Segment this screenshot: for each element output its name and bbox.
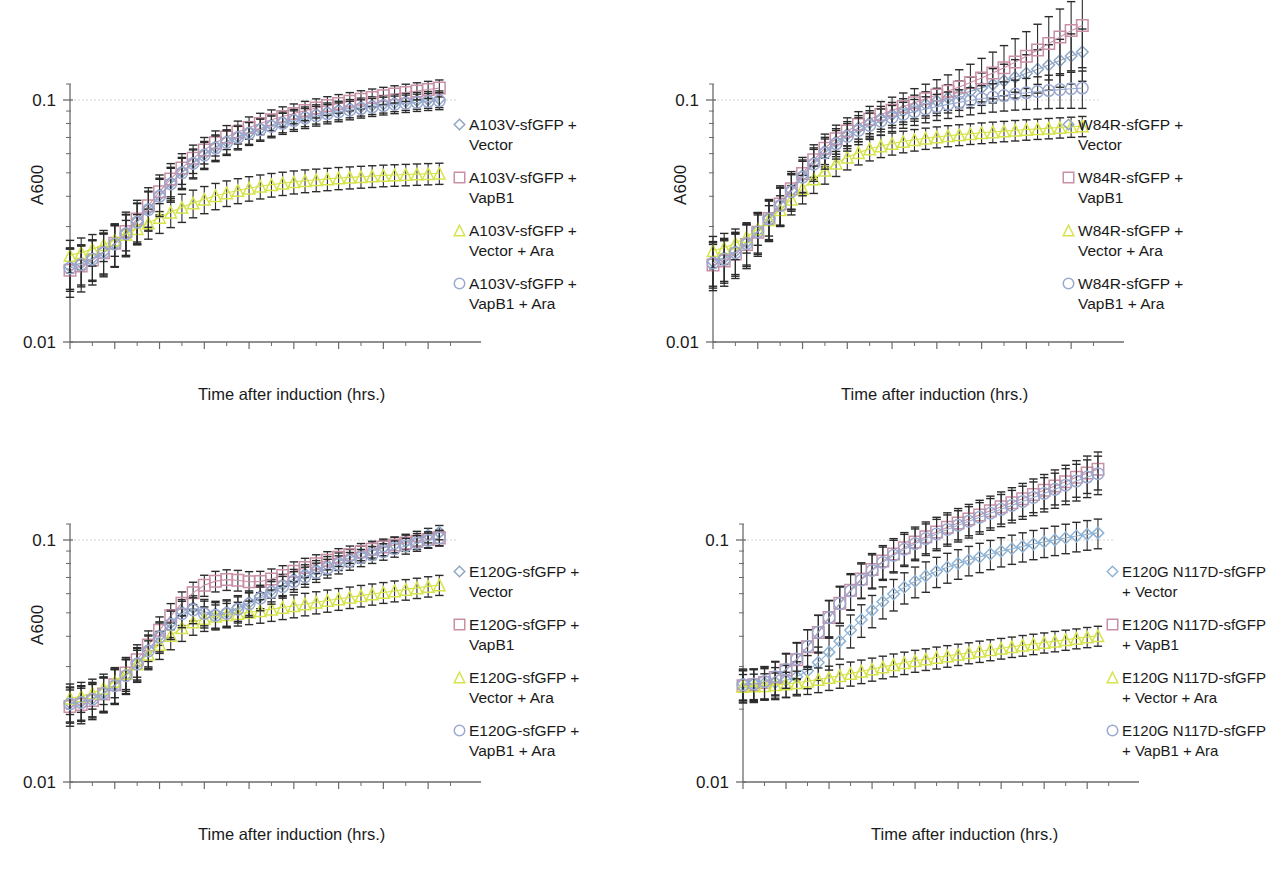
panel-a103v: A600 Time after induction (hrs.) 0.1 0.0… [0, 0, 644, 440]
growth-curve-figure: A600 Time after induction (hrs.) 0.1 0.0… [0, 0, 1287, 880]
triangle-marker-icon [1105, 670, 1120, 685]
legend-label: E120G-sfGFP + VapB1 [469, 615, 579, 655]
legend-label: E120G-sfGFP + Vector + Ara [469, 668, 579, 708]
legend-label: W84R-sfGFP + VapB1 [1078, 168, 1183, 208]
series-diamond [707, 29, 1088, 286]
y-tick-label-bottom: 0.01 [0, 773, 56, 793]
series-square [64, 530, 445, 726]
y-tick-label-bottom: 0.01 [673, 773, 729, 793]
triangle-marker-icon [452, 670, 467, 685]
legend-item: E120G N117D-sfGFP + VapB1 [1105, 615, 1285, 655]
legend-label: A103V-sfGFP + VapB1 [469, 168, 577, 208]
y-tick-label-bottom: 0.01 [0, 333, 56, 353]
circle-marker-icon [1105, 723, 1120, 738]
y-axis-title: A600 [28, 164, 48, 205]
triangle-marker-icon [452, 223, 467, 238]
legend-label: E120G N117D-sfGFP + VapB1 [1122, 615, 1266, 655]
x-axis-title: Time after induction (hrs.) [198, 825, 385, 844]
y-tick-label-top: 0.1 [6, 531, 56, 551]
legend-label: A103V-sfGFP + Vector [469, 115, 577, 155]
square-marker-icon [452, 170, 467, 185]
y-axis-title: A600 [671, 164, 691, 205]
legend-item: A103V-sfGFP + Vector + Ara [452, 221, 632, 261]
legend-label: E120G N117D-sfGFP + Vector + Ara [1122, 668, 1266, 708]
diamond-marker-icon [1061, 117, 1076, 132]
legend-item: E120G-sfGFP + Vector [452, 562, 637, 602]
series-circle [64, 531, 445, 724]
legend-label: E120G-sfGFP + VapB1 + Ara [469, 721, 579, 761]
square-marker-icon [1061, 170, 1076, 185]
legend-label: E120G-sfGFP + Vector [469, 562, 579, 602]
panel-e120g: A600 Time after induction (hrs.) 0.1 0.0… [0, 440, 644, 880]
y-tick-label-top: 0.1 [649, 91, 699, 111]
legend-a103v: A103V-sfGFP + VectorA103V-sfGFP + VapB1A… [452, 115, 632, 327]
y-tick-label-top: 0.1 [6, 91, 56, 111]
panel-w84r: A600 Time after induction (hrs.) 0.1 0.0… [643, 0, 1287, 440]
legend-label: A103V-sfGFP + Vector + Ara [469, 221, 577, 261]
legend-label: W84R-sfGFP + Vector [1078, 115, 1183, 155]
diamond-marker-icon [452, 117, 467, 132]
legend-item: E120G N117D-sfGFP + Vector [1105, 562, 1285, 602]
circle-marker-icon [452, 276, 467, 291]
legend-e120g: E120G-sfGFP + VectorE120G-sfGFP + VapB1E… [452, 562, 637, 774]
x-axis-title: Time after induction (hrs.) [841, 385, 1028, 404]
legend-label: W84R-sfGFP + Vector + Ara [1078, 221, 1183, 261]
legend-item: E120G-sfGFP + VapB1 + Ara [452, 721, 637, 761]
legend-item: W84R-sfGFP + VapB1 + Ara [1061, 274, 1251, 314]
legend-w84r: W84R-sfGFP + VectorW84R-sfGFP + VapB1W84… [1061, 115, 1251, 327]
legend-item: E120G N117D-sfGFP + Vector + Ara [1105, 668, 1285, 708]
square-marker-icon [1105, 617, 1120, 632]
legend-item: W84R-sfGFP + Vector + Ara [1061, 221, 1251, 261]
legend-item: W84R-sfGFP + Vector [1061, 115, 1251, 155]
y-axis-title: A600 [28, 604, 48, 645]
triangle-marker-icon [1061, 223, 1076, 238]
legend-label: W84R-sfGFP + VapB1 + Ara [1078, 274, 1183, 314]
square-marker-icon [452, 617, 467, 632]
x-axis-title: Time after induction (hrs.) [871, 825, 1058, 844]
legend-label: A103V-sfGFP + VapB1 + Ara [469, 274, 577, 314]
legend-item: E120G-sfGFP + Vector + Ara [452, 668, 637, 708]
y-tick-label-top: 0.1 [679, 531, 729, 551]
circle-marker-icon [1061, 276, 1076, 291]
series-triangle [64, 163, 445, 273]
series-square [64, 80, 445, 297]
diamond-marker-icon [1105, 564, 1120, 579]
legend-item: E120G N117D-sfGFP + VapB1 + Ara [1105, 721, 1285, 761]
y-tick-label-bottom: 0.01 [643, 333, 699, 353]
legend-item: A103V-sfGFP + VapB1 + Ara [452, 274, 632, 314]
panel-e120g-n117d: Time after induction (hrs.) 0.1 0.01 E12… [643, 440, 1287, 880]
legend-item: E120G-sfGFP + VapB1 [452, 615, 637, 655]
legend-label: E120G N117D-sfGFP + Vector [1122, 562, 1266, 602]
legend-item: A103V-sfGFP + Vector [452, 115, 632, 155]
circle-marker-icon [452, 723, 467, 738]
legend-item: W84R-sfGFP + VapB1 [1061, 168, 1251, 208]
legend-label: E120G N117D-sfGFP + VapB1 + Ara [1122, 721, 1266, 761]
series-triangle [707, 116, 1088, 267]
x-axis-title: Time after induction (hrs.) [198, 385, 385, 404]
legend-e120g-n117d: E120G N117D-sfGFP + VectorE120G N117D-sf… [1105, 562, 1285, 774]
diamond-marker-icon [452, 564, 467, 579]
legend-item: A103V-sfGFP + VapB1 [452, 168, 632, 208]
